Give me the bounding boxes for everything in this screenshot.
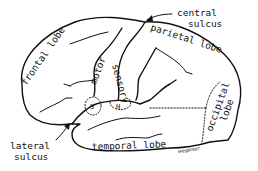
arrowhead: [146, 15, 153, 21]
lateral-sulcus-label-2: sulcus: [14, 151, 48, 162]
frontal-lobe-label: frontal lobe: [19, 24, 68, 87]
inferior-frontal-sulcus: [40, 98, 72, 112]
hearing-area-label: H: [116, 103, 120, 111]
superior-temporal-sulcus: [88, 116, 160, 130]
sensory-area-label: sensory: [110, 63, 131, 105]
artist-signature: wegener: [177, 145, 200, 155]
frontal-sulcus: [70, 32, 108, 44]
central-sulcus-label-1: central: [177, 7, 217, 18]
postcentral-sulcus-line: [136, 48, 156, 100]
motor-area-label: motor: [88, 55, 108, 86]
speech-area-label: S: [90, 103, 94, 111]
lateral-sulcus-label-1: lateral: [10, 140, 50, 151]
central-sulcus-label-2: sulcus: [188, 18, 222, 29]
intraparietal-sulcus: [156, 48, 192, 74]
brain-diagram: frontal lobe parietal lobe occipital lob…: [0, 0, 258, 171]
